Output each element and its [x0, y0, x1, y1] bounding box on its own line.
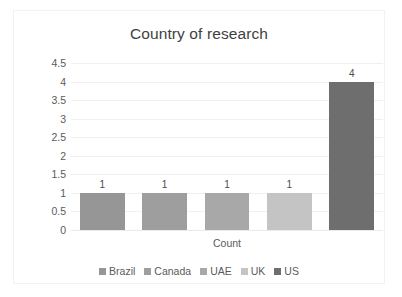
legend-label: US — [284, 266, 299, 277]
legend-swatch-icon — [274, 268, 281, 275]
legend-item-canada[interactable]: Canada — [144, 266, 191, 277]
y-axis-tick-label: 4 — [60, 76, 66, 87]
legend-item-us[interactable]: US — [274, 266, 299, 277]
x-axis-title: Count — [71, 237, 383, 249]
bar-canada[interactable]: 1 — [142, 193, 187, 230]
chart-legend: BrazilCanadaUAEUKUS — [14, 266, 384, 277]
y-axis-tick-label: 3 — [60, 113, 66, 124]
bar-data-label: 1 — [142, 180, 187, 190]
y-axis-tick-label: 0.5 — [51, 206, 66, 217]
bar-data-label: 1 — [80, 180, 125, 190]
bar-uk[interactable]: 1 — [267, 193, 312, 230]
legend-item-brazil[interactable]: Brazil — [99, 266, 135, 277]
legend-item-uk[interactable]: UK — [241, 266, 266, 277]
legend-label: UK — [251, 266, 266, 277]
legend-label: Canada — [154, 266, 191, 277]
y-axis-tick-label: 1 — [60, 188, 66, 199]
bar-data-label: 1 — [205, 180, 250, 190]
bar-brazil[interactable]: 1 — [80, 193, 125, 230]
legend-label: UAE — [210, 266, 232, 277]
chart-title: Country of research — [14, 25, 384, 43]
y-axis-tick-label: 4.5 — [51, 58, 66, 69]
y-axis-tick-label: 0 — [60, 225, 66, 236]
bar-us[interactable]: 4 — [329, 82, 374, 230]
legend-swatch-icon — [144, 268, 151, 275]
bar-uae[interactable]: 1 — [205, 193, 250, 230]
y-axis-tick-label: 1.5 — [51, 169, 66, 180]
legend-item-uae[interactable]: UAE — [200, 266, 232, 277]
plot-area: 11114 — [71, 63, 383, 230]
legend-label: Brazil — [109, 266, 135, 277]
bar-data-label: 1 — [267, 180, 312, 190]
chart-frame: Country of research 4.543.532.521.510.50… — [13, 10, 385, 284]
bar-data-label: 4 — [329, 69, 374, 79]
y-axis-tick-label: 2.5 — [51, 132, 66, 143]
legend-swatch-icon — [200, 268, 207, 275]
legend-swatch-icon — [99, 268, 106, 275]
gridline — [71, 230, 383, 231]
y-axis-tick-label: 3.5 — [51, 95, 66, 106]
bars-layer: 11114 — [71, 63, 383, 230]
y-axis-tick-label: 2 — [60, 151, 66, 162]
y-axis-tick-labels: 4.543.532.521.510.50 — [26, 63, 66, 230]
legend-swatch-icon — [241, 268, 248, 275]
